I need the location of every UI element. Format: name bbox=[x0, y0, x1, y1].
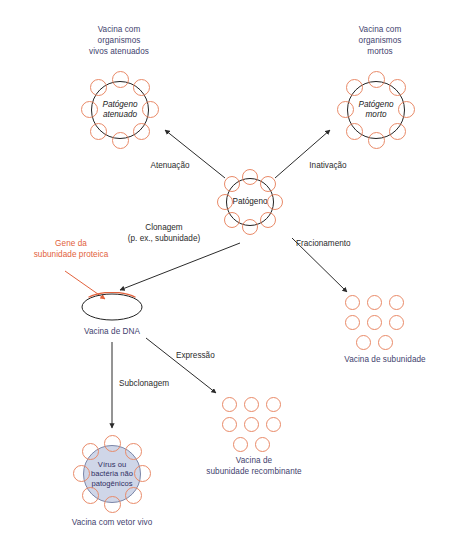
spike-icon bbox=[346, 123, 363, 140]
vaccine-types-diagram: Patógeno Vacina com organismos vivos ate… bbox=[0, 0, 451, 543]
subunit-icon bbox=[378, 335, 393, 350]
edge-label-expression: Expressão bbox=[176, 350, 246, 361]
spike-icon bbox=[389, 123, 406, 140]
spike-icon bbox=[398, 101, 415, 118]
edge-label-inactivation: Inativação bbox=[288, 160, 368, 171]
attenuated-core-label: Patógeno atenuado bbox=[102, 100, 137, 121]
subunit-icon bbox=[244, 417, 259, 432]
spike-icon bbox=[133, 79, 150, 96]
spike-icon bbox=[224, 176, 240, 192]
subunit-icon bbox=[367, 315, 382, 330]
spike-icon bbox=[260, 176, 276, 192]
spike-icon bbox=[142, 101, 159, 118]
subunit-icon bbox=[266, 397, 281, 412]
subunit-icon bbox=[356, 335, 371, 350]
caption-subunit-vaccine: Vacina de subunidade bbox=[321, 354, 449, 365]
spike-icon bbox=[82, 443, 99, 460]
spike-icon bbox=[134, 465, 151, 482]
spike-icon bbox=[90, 79, 107, 96]
subunit-icon bbox=[266, 417, 281, 432]
spike-icon bbox=[346, 79, 363, 96]
spike-icon bbox=[104, 435, 121, 452]
vector-core-label: Vírus ou bactéria não patogênicos bbox=[91, 460, 133, 489]
caption-killed-vaccine: Vacina com organismos mortos bbox=[315, 24, 445, 58]
node-recombinant-subunit-vaccine bbox=[222, 397, 286, 453]
pathogen-core-label: Patógeno bbox=[232, 197, 267, 207]
caption-recombinant-subunit-vaccine: Vacina de subunidade recombinante bbox=[189, 455, 319, 477]
node-killed-pathogen: Patógeno morto bbox=[338, 72, 414, 148]
node-pathogen: Patógeno bbox=[218, 170, 282, 234]
edge-label-fractionation: Fracionamento bbox=[296, 238, 400, 249]
node-dna-vaccine-plasmid bbox=[80, 292, 144, 322]
spike-icon bbox=[337, 101, 354, 118]
subunit-icon bbox=[222, 417, 237, 432]
edge-label-attenuation: Atenuação bbox=[130, 160, 210, 171]
spike-icon bbox=[82, 487, 99, 504]
label-protein-subunit-gene: Gene da subunidade proteica bbox=[6, 238, 136, 260]
spike-icon bbox=[242, 169, 258, 185]
spike-icon bbox=[242, 219, 258, 235]
node-subunit-vaccine bbox=[345, 295, 409, 351]
spike-icon bbox=[133, 123, 150, 140]
subunit-icon bbox=[367, 295, 382, 310]
edge-cloning bbox=[120, 243, 240, 290]
spike-icon bbox=[267, 194, 283, 210]
killed-core-label: Patógeno morto bbox=[358, 100, 393, 121]
subunit-icon bbox=[345, 295, 360, 310]
node-attenuated-pathogen: Patógeno atenuado bbox=[82, 72, 158, 148]
spike-icon bbox=[73, 465, 90, 482]
spike-icon bbox=[125, 443, 142, 460]
spike-icon bbox=[368, 71, 385, 88]
edge-label-subcloning: Subclonagem bbox=[119, 378, 199, 389]
spike-icon bbox=[389, 79, 406, 96]
caption-attenuated-vaccine: Vacina com organismos vivos atenuados bbox=[52, 24, 186, 58]
spike-icon bbox=[368, 132, 385, 149]
subunit-icon bbox=[389, 295, 404, 310]
subunit-icon bbox=[244, 397, 259, 412]
spike-icon bbox=[224, 212, 240, 228]
node-live-vector-vaccine: Vírus ou bactéria não patogênicos bbox=[74, 436, 150, 512]
caption-live-vector-vaccine: Vacina com vetor vivo bbox=[48, 517, 176, 528]
spike-icon bbox=[90, 123, 107, 140]
spike-icon bbox=[104, 496, 121, 513]
subunit-icon bbox=[345, 315, 360, 330]
subunit-icon bbox=[255, 437, 270, 452]
spike-icon bbox=[260, 212, 276, 228]
subunit-icon bbox=[389, 315, 404, 330]
spike-icon bbox=[125, 487, 142, 504]
caption-dna-vaccine: Vacina de DNA bbox=[62, 326, 162, 337]
plasmid-icon bbox=[80, 292, 144, 322]
spike-icon bbox=[81, 101, 98, 118]
subunit-icon bbox=[222, 397, 237, 412]
spike-icon bbox=[112, 71, 129, 88]
spike-icon bbox=[112, 132, 129, 149]
spike-icon bbox=[217, 194, 233, 210]
subunit-icon bbox=[233, 437, 248, 452]
